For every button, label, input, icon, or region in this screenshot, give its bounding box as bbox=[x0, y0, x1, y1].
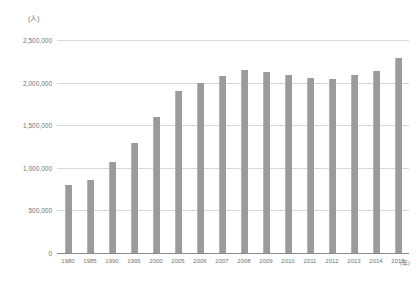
bar[interactable] bbox=[329, 79, 336, 253]
bar[interactable] bbox=[351, 75, 358, 253]
bar-slot bbox=[343, 40, 365, 253]
x-axis-tick-label: 1985 bbox=[79, 258, 101, 264]
bar[interactable] bbox=[395, 58, 402, 253]
x-axis-tick-label: 2013 bbox=[343, 258, 365, 264]
bar[interactable] bbox=[263, 72, 270, 253]
x-axis-tick-label: 2005 bbox=[167, 258, 189, 264]
bar[interactable] bbox=[241, 70, 248, 253]
bar-slot bbox=[255, 40, 277, 253]
bar-slot bbox=[79, 40, 101, 253]
bar-slot bbox=[123, 40, 145, 253]
x-axis-tick-labels: 1980198519901995200020052006200720082009… bbox=[57, 258, 409, 264]
plot-area: 2,500,0002,000,0001,500,0001,000,000500,… bbox=[57, 40, 409, 254]
y-axis-tick-label: 0 bbox=[48, 250, 52, 257]
bar-slot bbox=[233, 40, 255, 253]
bar-slot bbox=[101, 40, 123, 253]
x-axis-tick-label: 1980 bbox=[57, 258, 79, 264]
bar-slot bbox=[277, 40, 299, 253]
x-axis-tick-label: 2007 bbox=[211, 258, 233, 264]
x-axis-tick-label: 2012 bbox=[321, 258, 343, 264]
bar-chart: (人) 2,500,0002,000,0001,500,0001,000,000… bbox=[0, 0, 419, 284]
x-axis-unit-label: (年) bbox=[400, 258, 410, 267]
y-axis-tick-label: 2,000,000 bbox=[23, 79, 52, 86]
bar[interactable] bbox=[373, 71, 380, 253]
bar-slot bbox=[57, 40, 79, 253]
bar[interactable] bbox=[87, 180, 94, 253]
bar-slot bbox=[145, 40, 167, 253]
x-axis-tick-label: 2000 bbox=[145, 258, 167, 264]
bar[interactable] bbox=[175, 91, 182, 253]
y-axis-unit-label: (人) bbox=[28, 13, 40, 23]
y-axis-tick-label: 1,500,000 bbox=[23, 122, 52, 129]
bar[interactable] bbox=[307, 78, 314, 253]
bar[interactable] bbox=[219, 76, 226, 253]
bar[interactable] bbox=[285, 75, 292, 253]
bar-slot bbox=[321, 40, 343, 253]
y-axis-tick-label: 2,500,000 bbox=[23, 37, 52, 44]
bar-slot bbox=[167, 40, 189, 253]
bar-slot bbox=[299, 40, 321, 253]
bar[interactable] bbox=[109, 162, 116, 253]
bar-slot bbox=[387, 40, 409, 253]
bar-slot bbox=[365, 40, 387, 253]
x-axis-tick-label: 1995 bbox=[123, 258, 145, 264]
bar[interactable] bbox=[131, 143, 138, 253]
bar[interactable] bbox=[197, 83, 204, 253]
x-axis-tick-label: 2009 bbox=[255, 258, 277, 264]
bar[interactable] bbox=[65, 185, 72, 253]
x-axis-tick-label: 2011 bbox=[299, 258, 321, 264]
x-axis-tick-label: 1990 bbox=[101, 258, 123, 264]
bar[interactable] bbox=[153, 117, 160, 253]
x-axis-tick-label: 2008 bbox=[233, 258, 255, 264]
x-axis-tick-label: 2006 bbox=[189, 258, 211, 264]
x-axis-tick-label: 2010 bbox=[277, 258, 299, 264]
y-axis-tick-label: 500,000 bbox=[29, 207, 53, 214]
bar-series bbox=[57, 40, 409, 253]
y-axis-tick-label: 1,000,000 bbox=[23, 164, 52, 171]
x-axis-tick-label: 2014 bbox=[365, 258, 387, 264]
bar-slot bbox=[211, 40, 233, 253]
x-axis-line bbox=[57, 253, 409, 254]
bar-slot bbox=[189, 40, 211, 253]
